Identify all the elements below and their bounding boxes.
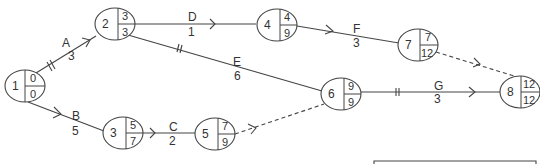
dummy-edge-7-8	[436, 52, 514, 76]
activity-label: E	[233, 55, 241, 69]
node-earliest: 9	[348, 80, 354, 92]
edge-F	[297, 26, 399, 43]
activity-duration: 3	[434, 92, 441, 106]
node-id: 8	[507, 85, 514, 99]
node-id: 4	[264, 18, 271, 32]
node-4: 4 4 9	[257, 9, 297, 41]
node-7: 7 7 12	[398, 29, 438, 61]
activity-label: C	[169, 120, 178, 134]
node-1: 1 0 0	[5, 70, 45, 102]
node-id: 7	[405, 38, 412, 52]
node-8: 8 12 12	[500, 76, 540, 108]
node-latest: 9	[348, 96, 354, 108]
activity-label: G	[434, 79, 443, 93]
critical-marker-icon	[177, 44, 179, 52]
node-2: 2 3 3	[95, 8, 135, 40]
node-latest: 12	[421, 47, 433, 59]
node-latest: 9	[222, 136, 228, 148]
node-earliest: 4	[284, 11, 290, 23]
activity-label: A	[62, 36, 70, 50]
activity-label: B	[72, 109, 80, 123]
edge-B	[28, 102, 104, 131]
node-latest: 9	[284, 27, 290, 39]
activity-duration: 3	[68, 49, 75, 63]
edge-E	[128, 35, 322, 91]
node-latest: 0	[30, 88, 36, 100]
activity-duration: 6	[234, 69, 241, 83]
node-latest: 12	[523, 94, 535, 106]
node-earliest: 5	[130, 119, 136, 131]
activity-label: D	[188, 10, 197, 24]
node-earliest: 7	[425, 31, 431, 43]
partial-box	[374, 161, 536, 164]
node-earliest: 3	[122, 10, 128, 22]
node-earliest: 12	[523, 78, 535, 90]
dummy-edge-5-6	[235, 104, 324, 134]
node-6: 6 9 9	[321, 78, 361, 110]
node-id: 3	[110, 126, 117, 140]
node-id: 6	[328, 87, 335, 101]
activity-duration: 5	[72, 124, 79, 138]
network-diagram: 1 0 0 2 3 3 3 5 7 4 4 9 5 7 9	[0, 0, 540, 164]
activity-label: F	[353, 22, 360, 36]
arrowhead-icon	[325, 25, 333, 34]
node-id: 1	[12, 79, 19, 93]
node-id: 2	[102, 17, 109, 31]
node-latest: 3	[122, 26, 128, 38]
node-5: 5 7 9	[195, 118, 235, 150]
node-latest: 7	[130, 135, 136, 147]
activity-duration: 3	[353, 36, 360, 50]
activity-duration: 2	[169, 134, 176, 148]
node-earliest: 7	[222, 120, 228, 132]
node-3: 3 5 7	[103, 117, 143, 149]
activity-duration: 1	[188, 25, 195, 39]
node-earliest: 0	[30, 72, 36, 84]
node-id: 5	[202, 127, 209, 141]
